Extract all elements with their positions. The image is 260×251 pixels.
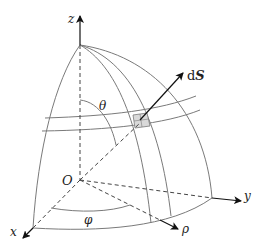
rho-arrow [160, 220, 178, 229]
latitude-band-top [45, 96, 196, 118]
meridian-1 [80, 45, 151, 223]
radius-to-patch [80, 123, 140, 180]
z-axis-label: z [67, 12, 75, 26]
x-axis-hidden [33, 180, 80, 228]
sphere-diagram: z x y O ρ θ φ dS [0, 0, 260, 251]
dS-vector-arrow [140, 73, 183, 120]
rho-label: ρ [181, 222, 189, 236]
dS-label: dS [187, 68, 205, 83]
phi-label: φ [84, 213, 93, 227]
dS-d: d [187, 68, 195, 83]
theta-label: θ [99, 99, 107, 113]
y-axis-arrow [212, 198, 241, 201]
x-axis-label: x [10, 225, 17, 239]
y-axis-label: y [243, 189, 251, 203]
x-axis-arrow [23, 228, 33, 238]
dS-S: S [195, 68, 204, 83]
meridian-xz [33, 45, 80, 228]
phi-arc [51, 205, 130, 211]
origin-label: O [62, 173, 73, 188]
theta-arc [80, 100, 116, 145]
